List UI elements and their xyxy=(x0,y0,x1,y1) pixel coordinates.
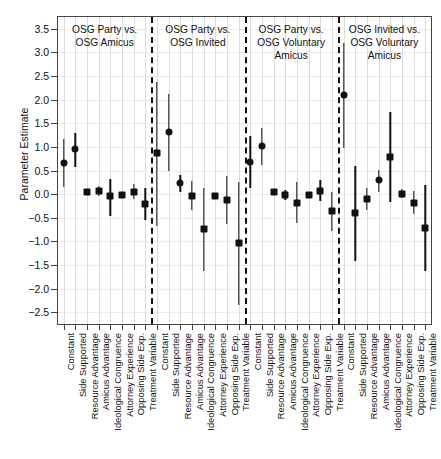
x-gridline xyxy=(99,17,100,324)
x-axis-tick xyxy=(145,324,146,330)
estimate-point xyxy=(177,180,184,187)
estimate-point xyxy=(340,92,347,99)
y-axis-tick-label: 2.5 xyxy=(15,71,49,82)
x-gridline xyxy=(145,17,146,324)
estimate-point xyxy=(189,192,196,199)
y-axis-tick-label: 3.0 xyxy=(15,47,49,58)
x-gridline xyxy=(309,17,310,324)
estimate-point xyxy=(258,142,265,149)
x-gridline xyxy=(367,17,368,324)
y-axis-tick xyxy=(51,76,58,77)
group-title: OSG Party vs. OSG Invited xyxy=(155,23,240,49)
plot-frame: 3.53.02.52.01.51.00.50.0−0.5−1.0−1.5−2.0… xyxy=(57,16,432,325)
x-axis-tick-label: Treatment Variable xyxy=(336,333,345,411)
estimate-point xyxy=(107,193,114,200)
x-gridline xyxy=(180,17,181,324)
group-separator xyxy=(338,17,340,324)
x-axis-tick xyxy=(274,324,275,330)
x-gridline xyxy=(110,17,111,324)
x-axis-tick-label: Constant xyxy=(67,333,76,370)
estimate-point xyxy=(375,177,382,184)
estimate-point xyxy=(224,197,231,204)
estimate-point xyxy=(387,153,394,160)
estimate-point xyxy=(317,188,324,195)
y-axis-tick xyxy=(51,29,58,30)
x-gridline xyxy=(122,17,123,324)
x-axis-tick-label: Resource Advantage xyxy=(91,333,100,419)
x-axis-tick xyxy=(64,324,65,330)
y-axis-tick xyxy=(51,194,58,195)
y-axis-tick-label: −0.5 xyxy=(15,212,49,223)
x-axis-tick xyxy=(414,324,415,330)
y-axis-tick-label: 1.5 xyxy=(15,118,49,129)
x-axis-tick xyxy=(239,324,240,330)
x-axis-tick-label: Side Supported xyxy=(172,333,181,397)
y-axis-tick-label: 2.0 xyxy=(15,94,49,105)
estimate-point xyxy=(142,200,149,207)
x-gridline xyxy=(87,17,88,324)
y-axis-tick-label: 3.5 xyxy=(15,24,49,35)
y-axis-tick-label: 1.0 xyxy=(15,142,49,153)
estimate-point xyxy=(247,158,254,165)
x-axis-tick-label: Opposing Side Exp. xyxy=(137,333,146,415)
estimate-point xyxy=(212,193,219,200)
x-gridline xyxy=(75,17,76,324)
estimate-point xyxy=(410,199,417,206)
x-gridline xyxy=(274,17,275,324)
x-gridline xyxy=(285,17,286,324)
x-axis-tick xyxy=(134,324,135,330)
estimate-point xyxy=(235,239,242,246)
group-separator xyxy=(245,17,247,324)
estimate-point xyxy=(84,189,91,196)
x-axis-tick-label: Ideological Congruence xyxy=(207,333,216,431)
x-axis-tick xyxy=(390,324,391,330)
x-axis-tick xyxy=(425,324,426,330)
y-axis-tick xyxy=(51,147,58,148)
estimate-point xyxy=(328,208,335,215)
estimate-point xyxy=(293,200,300,207)
x-axis-tick-label: Attorney Experience xyxy=(126,333,135,417)
y-axis-tick-label: −2.5 xyxy=(15,307,49,318)
x-axis-tick-label: Opposing Side Exp. xyxy=(231,333,240,415)
y-axis-tick xyxy=(51,100,58,101)
x-axis-tick-label: Ideological Congruence xyxy=(301,333,310,431)
x-axis-tick xyxy=(262,324,263,330)
x-axis-tick-label: Attorney Experience xyxy=(405,333,414,417)
chart-canvas: Parameter Estimate 3.53.02.52.01.51.00.5… xyxy=(0,0,441,459)
x-gridline xyxy=(192,17,193,324)
estimate-point xyxy=(305,192,312,199)
x-axis-tick-label: Amicus Advantage xyxy=(196,333,205,410)
y-axis-tick xyxy=(51,241,58,242)
y-axis-tick-label: −1.0 xyxy=(15,236,49,247)
x-axis-tick xyxy=(297,324,298,330)
x-axis-tick xyxy=(227,324,228,330)
group-title: OSG Invited vs. OSG Voluntary Amicus xyxy=(342,23,427,62)
x-gridline xyxy=(215,17,216,324)
x-axis-tick xyxy=(379,324,380,330)
group-title: OSG Party vs. OSG Amicus xyxy=(62,23,147,49)
x-axis-tick xyxy=(367,324,368,330)
x-axis-tick xyxy=(215,324,216,330)
x-axis-tick-label: Treatment Variable xyxy=(242,333,251,411)
x-gridline xyxy=(332,17,333,324)
y-axis-tick xyxy=(51,171,58,172)
x-axis-tick-label: Opposing Side Exp. xyxy=(324,333,333,415)
estimate-point xyxy=(422,224,429,231)
x-axis-tick-label: Ideological Congruence xyxy=(394,333,403,431)
y-axis-tick-label: −1.5 xyxy=(15,260,49,271)
estimate-point xyxy=(95,187,102,194)
x-axis-tick-label: Attorney Experience xyxy=(312,333,321,417)
x-axis-tick-label: Ideological Congruence xyxy=(114,333,123,431)
x-axis-tick xyxy=(192,324,193,330)
x-axis-tick xyxy=(75,324,76,330)
x-axis-tick xyxy=(99,324,100,330)
x-axis-tick xyxy=(250,324,251,330)
y-axis-tick-label: −2.0 xyxy=(15,283,49,294)
x-axis-tick-label: Amicus Advantage xyxy=(102,333,111,410)
x-axis-tick-label: Opposing Side Exp. xyxy=(417,333,426,415)
x-gridline xyxy=(414,17,415,324)
x-axis-tick-label: Amicus Advantage xyxy=(289,333,298,410)
x-gridline xyxy=(134,17,135,324)
estimate-point xyxy=(398,190,405,197)
x-axis-tick xyxy=(402,324,403,330)
